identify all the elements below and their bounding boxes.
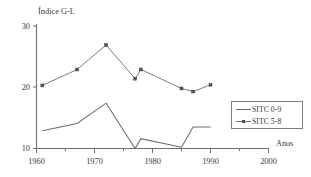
x-axis-major-ticks bbox=[37, 149, 269, 154]
y-tick-label-10: 10 bbox=[22, 144, 30, 153]
legend-label-sitc-5-8: SITC 5-8 bbox=[252, 117, 281, 126]
y-tick-label-20: 20 bbox=[22, 83, 30, 92]
x-tick-label-2000: 2000 bbox=[260, 157, 277, 166]
legend-label-sitc-0-9: SITC 0-9 bbox=[252, 105, 281, 114]
data-series-layer bbox=[41, 43, 212, 148]
legend-item-sitc-5-8[interactable]: SITC 5-8 bbox=[235, 116, 302, 127]
data-point-marker bbox=[76, 68, 79, 71]
data-point-marker bbox=[134, 77, 137, 80]
data-point-marker bbox=[105, 43, 108, 46]
series-sitc-0-9 bbox=[42, 103, 210, 148]
x-tick-label-1960: 1960 bbox=[28, 157, 45, 166]
chart-legend: SITC 0-9 SITC 5-8 bbox=[231, 101, 303, 129]
chart-plot-area: 30 20 10 1960 1970 1980 1990 2000 Índice… bbox=[0, 0, 311, 177]
legend-item-sitc-0-9[interactable]: SITC 0-9 bbox=[235, 104, 302, 115]
series-sitc-5-8 bbox=[41, 43, 212, 93]
y-tick-label-30: 30 bbox=[22, 22, 30, 31]
x-tick-label-1980: 1980 bbox=[144, 157, 161, 166]
data-point-marker bbox=[139, 68, 142, 71]
chart-container: 30 20 10 1960 1970 1980 1990 2000 Índice… bbox=[0, 0, 311, 177]
x-tick-label-1990: 1990 bbox=[202, 157, 219, 166]
data-point-marker bbox=[180, 87, 183, 90]
x-axis-title: Anos bbox=[276, 139, 293, 148]
legend-line-icon bbox=[235, 105, 252, 114]
y-axis-title: Índice G-L bbox=[38, 6, 75, 16]
data-point-marker bbox=[192, 90, 195, 93]
data-point-marker bbox=[209, 83, 212, 86]
data-point-marker bbox=[41, 84, 44, 87]
x-tick-label-1970: 1970 bbox=[86, 157, 103, 166]
legend-line-marker-icon bbox=[235, 117, 252, 126]
